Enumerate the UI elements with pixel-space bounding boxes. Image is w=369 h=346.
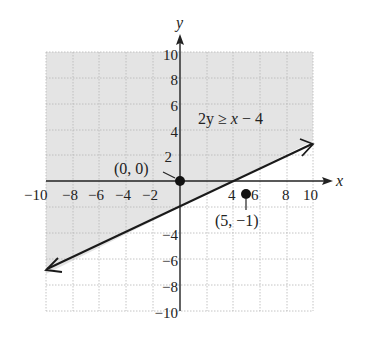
svg-text:6: 6 [251, 187, 259, 203]
inequality-label: 2y ≥ x − 4 [198, 110, 263, 128]
svg-text:8: 8 [171, 72, 179, 88]
point-test-label: (5, −1) [215, 212, 259, 230]
svg-text:10: 10 [163, 47, 178, 63]
point-origin-label: (0, 0) [114, 160, 149, 178]
svg-text:−4: −4 [162, 227, 178, 243]
inequality-graph: x y −10 −8 −6 −4 −2 4 6 8 10 10 8 6 4 2 … [0, 0, 369, 346]
svg-text:4: 4 [228, 187, 236, 203]
svg-text:10: 10 [303, 187, 318, 203]
svg-text:6: 6 [171, 98, 179, 114]
svg-text:−8: −8 [62, 187, 78, 203]
svg-text:8: 8 [282, 187, 290, 203]
point-test [241, 189, 251, 199]
svg-text:−2: −2 [142, 187, 158, 203]
svg-text:−6: −6 [88, 187, 104, 203]
svg-text:−8: −8 [162, 279, 178, 295]
y-axis-label: y [174, 14, 184, 32]
point-origin [175, 176, 185, 186]
svg-text:−4: −4 [115, 187, 131, 203]
svg-text:−6: −6 [162, 253, 178, 269]
svg-text:2: 2 [165, 149, 173, 165]
svg-text:4: 4 [171, 124, 179, 140]
x-axis-label: x [335, 172, 343, 189]
svg-text:−10: −10 [24, 187, 47, 203]
svg-text:−10: −10 [155, 305, 178, 321]
